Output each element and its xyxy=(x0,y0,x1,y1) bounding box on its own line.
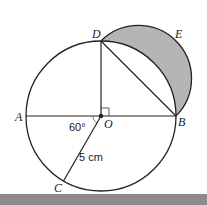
label-c: C xyxy=(54,181,63,195)
label-a: A xyxy=(14,110,23,124)
label-b: B xyxy=(178,115,186,129)
geometry-diagram: A B C D E O 60° 5 cm xyxy=(0,0,207,205)
label-o: O xyxy=(104,117,113,131)
center-point-o xyxy=(99,114,103,118)
radius-length-label: 5 cm xyxy=(79,151,103,163)
label-e: E xyxy=(174,27,183,41)
angle-arc-60 xyxy=(93,116,97,123)
label-d: D xyxy=(91,27,101,41)
angle-label: 60° xyxy=(69,121,86,133)
bottom-divider-bar xyxy=(0,194,207,205)
